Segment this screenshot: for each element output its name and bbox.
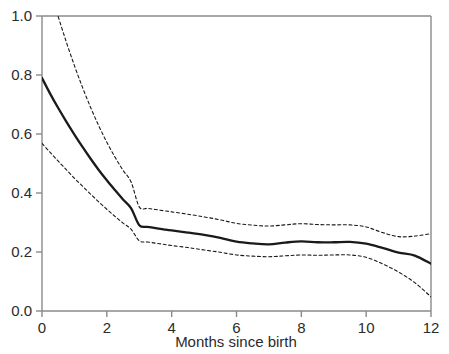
y-tick-label: 1.0 bbox=[11, 7, 32, 24]
data-curves bbox=[42, 0, 431, 297]
curve-estimate bbox=[42, 78, 431, 264]
y-tick-label: 0.0 bbox=[11, 302, 32, 319]
y-axis-ticks bbox=[36, 16, 42, 311]
y-axis-tick-labels: 0.00.20.40.60.81.0 bbox=[11, 7, 32, 319]
axis-frame bbox=[42, 16, 431, 311]
x-axis-ticks bbox=[42, 311, 431, 317]
x-tick-label: 12 bbox=[423, 319, 440, 336]
y-tick-label: 0.6 bbox=[11, 125, 32, 142]
y-tick-label: 0.4 bbox=[11, 184, 32, 201]
x-axis-title: Months since birth bbox=[175, 333, 297, 350]
x-tick-label: 10 bbox=[358, 319, 375, 336]
y-tick-label: 0.2 bbox=[11, 243, 32, 260]
chart-figure: 024681012 0.00.20.40.60.81.0 Months sinc… bbox=[0, 0, 449, 354]
x-tick-label: 8 bbox=[297, 319, 305, 336]
y-tick-label: 0.8 bbox=[11, 66, 32, 83]
curve-upper-confidence-limit bbox=[42, 0, 431, 237]
x-tick-label: 2 bbox=[103, 319, 111, 336]
x-tick-label: 0 bbox=[38, 319, 46, 336]
curve-lower-confidence-limit bbox=[42, 143, 431, 296]
chart-plot-area: 024681012 0.00.20.40.60.81.0 Months sinc… bbox=[0, 0, 449, 354]
